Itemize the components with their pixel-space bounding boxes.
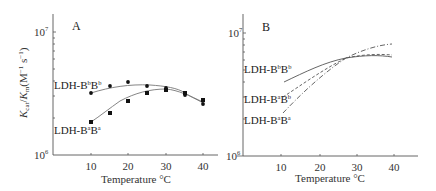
panel-a-y-top-label: 107 <box>34 25 49 38</box>
panel-b-label-ab: LDH-BaBb <box>244 93 291 105</box>
panel-a-label-aa: LDH-BaBa <box>54 124 101 136</box>
panel-a-x-title: Temperature °C <box>101 173 171 185</box>
panel-b-aa-curve <box>283 44 392 113</box>
panel-b: 107 106 10 20 30 40 Temperature °C B LDH… <box>226 14 418 184</box>
panel-b-bb-curve <box>284 56 392 82</box>
panel-a: 107 106 10 20 30 40 Temperature °C Kcat/… <box>17 14 218 185</box>
panel-a-x-tick-30: 30 <box>161 160 173 172</box>
panel-b-y-bottom-label: 106 <box>226 149 241 162</box>
panel-b-ab-curve <box>283 54 392 97</box>
panel-a-x-tick-20: 20 <box>123 160 135 172</box>
panel-a-aa-markers <box>89 88 205 124</box>
panel-a-x-tick-10: 10 <box>86 160 98 172</box>
panel-a-x-tick-40: 40 <box>198 160 210 172</box>
figure: 107 106 10 20 30 40 Temperature °C Kcat/… <box>0 0 436 191</box>
panel-b-y-top-label: 107 <box>228 26 243 39</box>
panel-b-x-title: Temperature °C <box>295 172 365 184</box>
panel-b-label: B <box>262 20 270 34</box>
panel-b-x-tick-40: 40 <box>389 161 401 173</box>
panel-b-x-tick-10: 10 <box>276 161 288 173</box>
panel-b-label-bb: LDH-BbBb <box>244 63 291 75</box>
panel-a-y-title: Kcat/Km(M−1 s−1) <box>17 47 31 119</box>
panel-a-y-bottom-label: 106 <box>34 148 49 161</box>
panel-b-label-aa: LDH-BaBa <box>244 114 291 126</box>
panel-a-label-bb: LDH-BbBb <box>54 79 101 91</box>
panel-a-label: A <box>72 19 81 33</box>
